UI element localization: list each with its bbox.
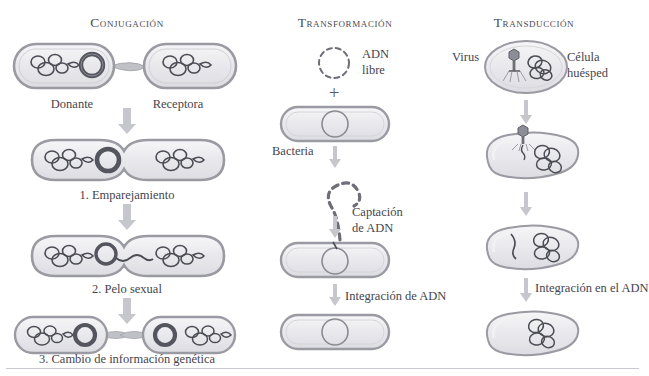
label-step-1-emparejamiento: 1. Emparejamiento <box>27 188 227 203</box>
conjugation-stage-0 <box>10 38 240 94</box>
arrow-transformation-2 <box>329 216 341 238</box>
transformation-bacteria <box>278 104 392 144</box>
label-celula-huesped-line2: huésped <box>567 66 608 81</box>
label-captacion-line2: de ADN <box>352 221 393 236</box>
label-step-2-pelo-sexual: 2. Pelo sexual <box>27 282 227 297</box>
label-integracion-de-adn: Integración de ADN <box>345 289 446 304</box>
transduction-host-cell <box>483 38 569 96</box>
label-adn-libre-line2: libre <box>362 63 385 78</box>
transformation-bacteria-integrated <box>278 312 392 352</box>
label-donante: Donante <box>22 97 122 112</box>
column-title-transduccion: Transducción <box>459 15 609 31</box>
label-receptora: Receptora <box>128 97 228 112</box>
transduction-dna-released <box>478 220 582 278</box>
arrow-transduction-1 <box>520 100 532 124</box>
column-title-conjugacion: Conjugación <box>27 15 227 31</box>
arrow-transduction-3 <box>520 278 532 302</box>
label-adn-libre-line1: ADN <box>362 47 389 62</box>
label-celula-huesped-line1: Célula <box>567 50 600 65</box>
label-captacion-line1: Captación <box>352 205 403 220</box>
label-virus: Virus <box>452 50 479 65</box>
arrow-conjugation-1 <box>118 108 136 134</box>
transduction-infection <box>478 126 582 188</box>
column-title-transformacion: Transformación <box>265 15 425 31</box>
arrow-transformation-1 <box>329 146 341 168</box>
label-step-3-cambio-genetico: 3. Cambio de información genética <box>10 352 244 367</box>
arrow-transformation-3 <box>329 284 341 306</box>
arrow-transduction-2 <box>520 192 532 216</box>
plus-sign: + <box>314 82 354 104</box>
arrow-conjugation-2 <box>118 204 136 230</box>
bottom-divider <box>6 368 639 369</box>
free-dna-circle <box>314 44 354 82</box>
conjugation-stage-1-mating <box>30 138 226 182</box>
label-bacteria: Bacteria <box>272 144 314 159</box>
label-integracion-en-el-adn: Integración en el ADN <box>535 281 649 296</box>
conjugation-stage-2-pilus <box>30 234 226 278</box>
transformation-bacteria-uptake <box>278 240 392 280</box>
transduction-integrated <box>478 306 582 364</box>
conjugation-stage-3-separated <box>12 314 238 356</box>
